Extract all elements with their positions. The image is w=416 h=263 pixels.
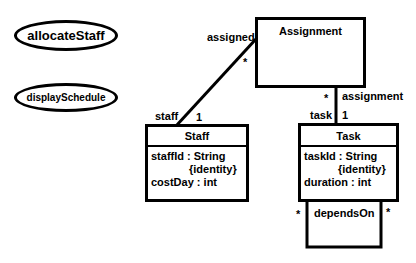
class-name: Staff (148, 127, 246, 147)
role-label-assigned: assigned (207, 31, 255, 43)
role-label-task: task (310, 109, 332, 121)
multiplicity-label: * (324, 92, 328, 104)
multiplicity-label: * (296, 208, 300, 220)
association-name-depends-on: dependsOn (314, 207, 375, 219)
class-assignment[interactable]: Assignment (255, 17, 366, 88)
class-task[interactable]: Task taskId : String {identity} duration… (298, 123, 399, 202)
operation-allocate-staff[interactable]: allocateStaff (14, 20, 118, 51)
operation-label: displaySchedule (27, 92, 106, 103)
operation-display-schedule[interactable]: displaySchedule (14, 83, 118, 112)
role-label-assignment: assignment (342, 90, 403, 102)
class-name: Assignment (258, 25, 363, 37)
staff-assignment-line[interactable] (176, 39, 256, 126)
attribute: duration : int (304, 176, 396, 189)
multiplicity-label: * (386, 206, 390, 218)
attribute: taskId : String (304, 150, 396, 163)
attribute: costDay : int (151, 176, 246, 189)
multiplicity-label: 1 (196, 111, 202, 123)
attribute-constraint: {identity} (151, 163, 246, 176)
role-label-staff: staff (155, 110, 178, 122)
multiplicity-label: 1 (342, 109, 348, 121)
attribute-constraint: {identity} (304, 163, 396, 176)
class-name: Task (301, 126, 396, 147)
attribute-list: taskId : String {identity} duration : in… (301, 147, 396, 189)
class-staff[interactable]: Staff staffId : String {identity} costDa… (145, 124, 249, 202)
attribute-list: staffId : String {identity} costDay : in… (148, 147, 246, 189)
operation-label: allocateStaff (27, 28, 104, 43)
multiplicity-label: * (243, 56, 247, 68)
attribute: staffId : String (151, 150, 246, 163)
